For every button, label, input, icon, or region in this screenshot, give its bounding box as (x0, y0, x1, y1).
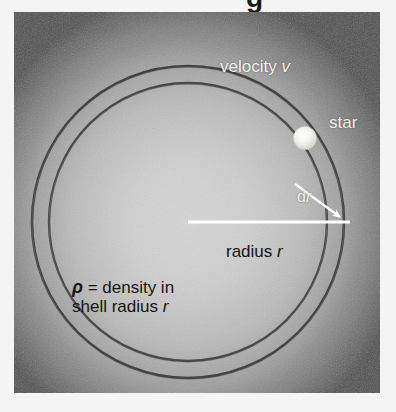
diagram-canvas (14, 12, 380, 393)
clipped-title-glyph: g (246, 0, 264, 12)
diagram-panel: velocity v star dr radius r ρ = density … (14, 12, 380, 393)
figure-root: g (0, 0, 396, 412)
